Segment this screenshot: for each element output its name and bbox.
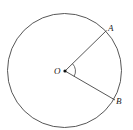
label-a: A (107, 23, 114, 33)
label-b: B (116, 96, 122, 106)
label-o: O (54, 66, 61, 76)
angle-arc-aob (73, 64, 76, 77)
radius-oa (65, 31, 107, 72)
circle-diagram: O A B (0, 0, 133, 130)
radius-ob (65, 71, 115, 100)
center-point-o (63, 69, 66, 72)
